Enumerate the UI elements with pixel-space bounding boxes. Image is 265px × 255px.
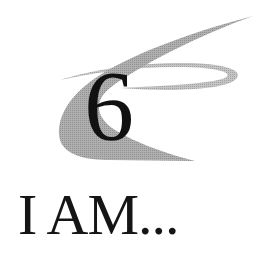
- logo-number: 6: [84, 56, 134, 156]
- tagline-heading: I AM...: [18, 186, 179, 244]
